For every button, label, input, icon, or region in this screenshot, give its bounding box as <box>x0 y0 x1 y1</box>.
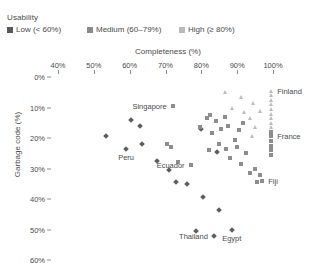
data-point-low <box>138 123 144 129</box>
data-point-medium <box>269 139 273 143</box>
data-point-low <box>216 207 222 213</box>
x-axis-tick-mark <box>94 70 95 74</box>
data-point-medium <box>244 151 248 155</box>
data-point-high <box>269 98 273 102</box>
point-label: Finland <box>277 86 302 95</box>
data-point-medium <box>169 145 173 149</box>
data-point-high <box>258 109 262 113</box>
y-axis-tick-mark <box>47 107 51 108</box>
data-point-low <box>173 179 179 185</box>
y-axis-tick-mark <box>47 199 51 200</box>
data-point-low <box>215 149 221 155</box>
data-point-high <box>253 125 257 129</box>
data-point-medium <box>217 142 221 146</box>
x-axis-tick-label: 60% <box>122 61 137 70</box>
data-point-high <box>251 101 255 105</box>
data-point-medium <box>253 167 257 171</box>
data-point-low <box>104 134 110 140</box>
x-axis-tick-mark <box>273 70 274 74</box>
data-point-high <box>250 134 254 138</box>
data-point-high <box>269 125 273 129</box>
point-label: France <box>277 132 300 141</box>
data-point-medium <box>224 147 228 151</box>
point-label: Egypt <box>222 234 241 243</box>
data-point-medium <box>210 131 214 135</box>
y-axis-tick-label: 20% <box>11 134 45 143</box>
data-point-medium <box>269 144 273 148</box>
point-label: Fiji <box>268 176 278 185</box>
y-axis-tick-mark <box>47 77 51 78</box>
data-point-low <box>200 195 206 201</box>
data-point-low <box>123 146 129 152</box>
data-point-high <box>242 110 246 114</box>
data-point-medium <box>239 162 243 166</box>
data-point-medium <box>189 163 193 167</box>
x-axis-tick-label: 70% <box>158 61 173 70</box>
data-point-low <box>229 227 235 233</box>
data-point-medium <box>208 113 212 117</box>
point-label: Ecuador <box>157 161 185 170</box>
y-axis-tick-label: 10% <box>11 103 45 112</box>
x-axis-tick-label: 40% <box>50 61 65 70</box>
data-point-high <box>248 116 252 120</box>
data-point-medium <box>248 171 252 175</box>
data-point-medium <box>235 145 239 149</box>
x-axis-tick-label: 80% <box>194 61 209 70</box>
data-point-high <box>239 95 243 99</box>
data-point-high <box>269 121 273 125</box>
plot-area: 40%50%60%70%80%90%100%0%10%20%30%40%50%6… <box>0 0 314 263</box>
data-point-medium <box>237 128 241 132</box>
y-axis-tick-mark <box>47 229 51 230</box>
data-point-medium <box>269 148 273 152</box>
x-axis-tick-mark <box>130 70 131 74</box>
point-label: Peru <box>118 153 134 162</box>
x-axis-tick-label: 100% <box>263 61 282 70</box>
x-axis-tick-label: 50% <box>86 61 101 70</box>
data-point-medium <box>207 148 211 152</box>
data-point-low <box>129 117 135 123</box>
y-axis-tick-label: 0% <box>11 73 45 82</box>
data-point-medium <box>241 121 245 125</box>
data-point-high <box>269 93 273 97</box>
x-axis-tick-mark <box>237 70 238 74</box>
y-axis-tick-label: 50% <box>11 225 45 234</box>
data-point-high <box>269 102 273 106</box>
data-point-medium <box>260 179 264 183</box>
y-axis-tick-label: 30% <box>11 164 45 173</box>
x-axis-tick-mark <box>166 70 167 74</box>
y-axis-tick-mark <box>47 260 51 261</box>
data-point-medium <box>233 138 237 142</box>
data-point-low <box>211 233 217 239</box>
data-point-low <box>139 141 145 147</box>
data-point-medium <box>255 180 259 184</box>
y-axis-tick-mark <box>47 138 51 139</box>
data-point-medium <box>269 153 273 157</box>
data-point-high <box>269 89 273 93</box>
data-point-medium <box>269 134 273 138</box>
data-point-high <box>223 90 227 94</box>
point-label: Thailand <box>179 231 208 240</box>
data-point-medium <box>219 127 223 131</box>
data-point-medium <box>226 124 230 128</box>
x-axis-tick-mark <box>201 70 202 74</box>
data-point-low <box>184 181 190 187</box>
data-point-medium <box>214 119 218 123</box>
data-point-high <box>269 116 273 120</box>
y-axis-tick-label: 40% <box>11 195 45 204</box>
x-axis-tick-mark <box>58 70 59 74</box>
data-point-medium <box>171 104 175 108</box>
data-point-medium <box>228 156 232 160</box>
data-point-high <box>269 107 273 111</box>
data-point-high <box>269 112 273 116</box>
x-axis-tick-label: 90% <box>230 61 245 70</box>
data-point-medium <box>269 130 273 134</box>
y-axis-tick-label: 60% <box>11 256 45 263</box>
data-point-high <box>230 106 234 110</box>
scatter-chart: Usability Low (< 60%) Medium (60–79%) Hi… <box>0 0 314 263</box>
data-point-medium <box>198 125 202 129</box>
y-axis-tick-mark <box>47 168 51 169</box>
point-label: Singapore <box>132 101 166 110</box>
data-point-medium <box>223 115 227 119</box>
data-point-medium <box>258 173 262 177</box>
